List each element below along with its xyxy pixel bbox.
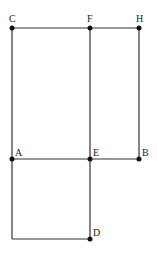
label-d: D <box>93 227 100 238</box>
point-c <box>10 26 15 31</box>
point-e <box>88 157 93 162</box>
label-a: A <box>15 147 23 158</box>
label-c: C <box>9 13 16 24</box>
point-d <box>88 237 93 242</box>
label-f: F <box>87 13 93 24</box>
point-b <box>137 157 142 162</box>
label-b: B <box>142 147 149 158</box>
point-a <box>10 157 15 162</box>
point-h <box>137 26 142 31</box>
label-h: H <box>136 13 143 24</box>
label-e: E <box>93 147 99 158</box>
geometry-diagram: C F H A E B D <box>0 0 157 256</box>
point-f <box>88 26 93 31</box>
